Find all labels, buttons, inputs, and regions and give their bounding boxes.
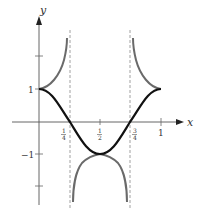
- y-axis-arrow-icon: [36, 16, 42, 25]
- x-label-one: 1: [158, 128, 164, 138]
- sec-curve-middle: [73, 154, 127, 202]
- x-axis-label: x: [187, 116, 194, 129]
- y-label-neg-one: −1: [21, 150, 34, 160]
- x-label-quarter-den: 4: [62, 134, 66, 141]
- y-axis-label: y: [39, 4, 47, 17]
- sec-curve-right: [133, 38, 161, 89]
- x-label-quarter-num: 1: [62, 127, 66, 134]
- x-label-three-quarter-num: 3: [133, 127, 137, 134]
- sec-curve-left: [39, 38, 67, 89]
- x-label-half-den: 2: [98, 134, 102, 141]
- x-label-half-num: 1: [98, 127, 102, 134]
- chart: y x 1 −1 1 4 1 2 3 4 1: [0, 0, 202, 213]
- y-label-one: 1: [28, 85, 34, 95]
- x-label-three-quarter-den: 4: [133, 134, 137, 141]
- x-axis-arrow-icon: [176, 119, 184, 125]
